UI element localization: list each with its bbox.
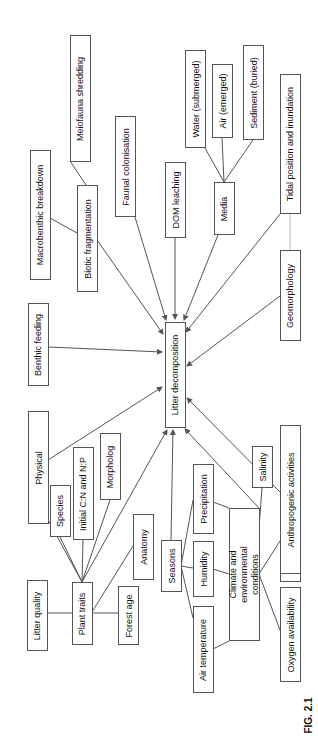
edge-media-center	[184, 235, 218, 320]
node-label: Seasons	[167, 548, 177, 583]
node-label: Anatomy	[139, 529, 149, 565]
edge-macrobenthic-biotic	[50, 218, 77, 233]
edge-meiofauna-biotic	[70, 161, 86, 185]
node-label: Biotic fragmentation	[83, 199, 93, 279]
edge-faunal-center	[135, 217, 166, 320]
node-macrobenthic-breakdown: Macrobenthic breakdown	[30, 150, 51, 280]
node-geomorphology: Geomorphology	[280, 250, 301, 341]
edge-seasons-airtemp	[181, 566, 193, 618]
figure-caption: FIG. 2.1	[300, 698, 316, 732]
edge-seasons-precip	[181, 500, 193, 566]
node-label: Litter quality	[33, 591, 43, 640]
node-label: Meiofauna shredding	[76, 56, 86, 140]
edge-species-plant	[60, 537, 82, 582]
node-initial-cn-np: Initial C:N and N:P	[73, 447, 94, 540]
node-anthropogenic-activities: Anthropogenic activities	[280, 425, 301, 574]
node-faunal-colonisation: Faunal colonisation	[115, 116, 136, 217]
node-media: Media	[214, 182, 235, 235]
node-label: Plant traits	[78, 592, 88, 635]
edge-precip-climate	[213, 502, 229, 508]
node-label: DOM leaching	[171, 171, 181, 228]
node-air-temperature: Air temperature	[193, 606, 214, 693]
node-physical: Physical	[28, 411, 49, 524]
edge-benthic-center	[48, 347, 162, 352]
node-oxygen-availability: Oxygen availability	[280, 587, 301, 682]
node-climate-conditions: Climate and environmental conditions	[229, 508, 260, 641]
node-label: Climate and environmental conditions	[228, 546, 261, 603]
node-litter-quality: Litter quality	[27, 580, 48, 651]
edge-oxygen-climate	[259, 574, 280, 630]
node-seasons: Seasons	[161, 540, 182, 592]
node-label: Anthropogenic activities	[286, 452, 296, 547]
edge-airtemp-climate	[213, 641, 229, 649]
edge-seasons-humidity	[181, 566, 193, 568]
node-label: Macrobenthic breakdown	[36, 165, 46, 266]
node-label: Tidal position and inundation	[286, 87, 296, 201]
edge-water-media	[205, 148, 224, 182]
node-label: Benthic feeding	[34, 313, 44, 375]
node-label: Sediment (buried)	[249, 57, 259, 129]
edge-cn-plant	[82, 540, 83, 582]
edge-humidity-climate	[213, 569, 229, 574]
litter-decomposition-diagram: Litter decomposition Meiofauna shredding…	[0, 0, 318, 736]
node-dom-leaching: DOM leaching	[165, 162, 186, 238]
node-label: Forest age	[124, 594, 134, 637]
edge-air-media	[222, 138, 224, 182]
node-salinity: Salinity	[252, 446, 273, 488]
node-sediment-buried: Sediment (buried)	[243, 45, 264, 140]
node-water-submerged: Water (submerged)	[185, 50, 206, 148]
edge-geomorph-center	[187, 296, 280, 366]
node-precipitation: Precipitation	[193, 464, 214, 534]
node-benthic-feeding: Benthic feeding	[28, 303, 49, 386]
node-air-emerged: Air (emerged)	[212, 64, 233, 138]
node-label: Oxygen availability	[286, 597, 296, 672]
node-label: Morpholog	[106, 445, 116, 488]
figure-label: FIG. 2.1	[303, 697, 314, 733]
node-label: Air temperature	[199, 618, 209, 680]
node-tidal-position: Tidal position and inundation	[280, 74, 301, 214]
node-species: Species	[50, 485, 71, 537]
node-biotic-fragmentation: Biotic fragmentation	[77, 185, 98, 292]
node-label: Salinity	[258, 452, 268, 481]
node-anatomy: Anatomy	[133, 514, 154, 580]
node-label: Media	[220, 196, 230, 221]
node-label: Species	[56, 495, 66, 527]
node-humidity: Humidity	[193, 541, 214, 597]
node-label: Faunal colonisation	[121, 128, 131, 206]
node-label: Air (emerged)	[218, 73, 228, 128]
node-forest-age: Forest age	[118, 586, 139, 645]
node-label: Humidity	[199, 551, 209, 586]
edge-redox-climate	[259, 541, 280, 574]
node-label: Litter decomposition	[171, 335, 181, 416]
node-meiofauna-shredding: Meiofauna shredding	[70, 35, 91, 162]
node-litter-decomposition: Litter decomposition	[165, 322, 186, 428]
node-plant-traits: Plant traits	[72, 582, 93, 645]
node-label: Physical	[34, 451, 44, 485]
node-label: Water (submerged)	[191, 60, 201, 137]
node-label: Initial C:N and N:P	[79, 456, 89, 530]
edge-sediment-media	[224, 140, 253, 182]
edge-biotic-center	[97, 240, 163, 334]
node-label: Precipitation	[199, 474, 209, 524]
edge-seasons-center	[171, 430, 173, 540]
node-label: Geomorphology	[286, 263, 296, 327]
node-morphology: Morpholog	[100, 433, 121, 500]
